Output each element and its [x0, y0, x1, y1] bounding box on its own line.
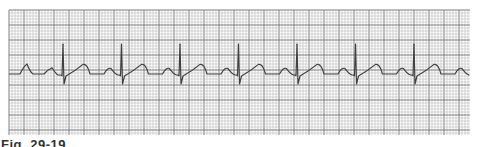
- ecg-strip: [0, 0, 477, 147]
- figure-caption: Fig. 29-19: [1, 137, 66, 147]
